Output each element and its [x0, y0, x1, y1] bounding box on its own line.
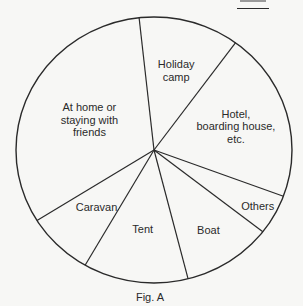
slice-label-line: staying with	[61, 114, 118, 126]
slice-divider	[154, 150, 188, 279]
slice-label-line: Boat	[197, 224, 220, 236]
slice-label: Caravan	[76, 201, 118, 213]
slice-label-line: Tent	[132, 223, 153, 235]
slice-label: Boat	[197, 224, 220, 236]
slice-label-line: Hotel,	[222, 108, 251, 120]
slice-label-line: friends	[73, 126, 107, 138]
figure-caption: Fig. A	[136, 291, 165, 303]
slice-label-line: boarding house,	[196, 120, 275, 132]
slice-divider	[154, 150, 283, 196]
slice-label-line: Others	[241, 200, 275, 212]
pie-slices	[16, 17, 292, 283]
slice-divider	[154, 150, 263, 232]
slice-label: At home orstaying withfriends	[61, 101, 118, 138]
slice-labels: HolidaycampHotel,boarding house,etc.Othe…	[61, 58, 276, 236]
slice-label: Hotel,boarding house,etc.	[196, 108, 275, 145]
slice-label-line: Holiday	[158, 58, 195, 70]
slice-label-line: camp	[163, 71, 190, 83]
slice-label-line: etc.	[227, 133, 245, 145]
slice-label: Others	[241, 200, 275, 212]
slice-label-line: Caravan	[76, 201, 118, 213]
pie-chart: HolidaycampHotel,boarding house,etc.Othe…	[0, 0, 303, 306]
slice-divider	[139, 18, 154, 150]
slice-label-line: At home or	[62, 101, 116, 113]
slice-label: Tent	[132, 223, 153, 235]
slice-label: Holidaycamp	[158, 58, 195, 83]
